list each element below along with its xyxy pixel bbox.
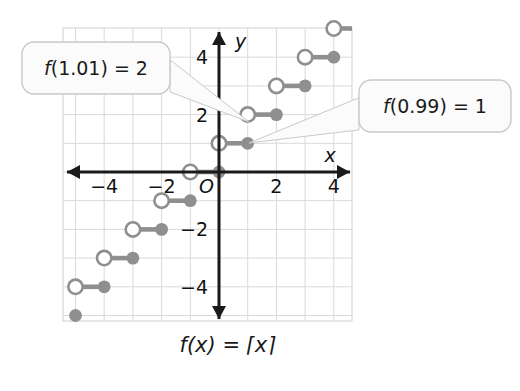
step-closed-endpoint: [270, 108, 283, 121]
x-tick-label: −2: [148, 175, 176, 197]
function-caption: f(x) = ⌈x⌉: [180, 333, 277, 357]
step-closed-endpoint: [184, 194, 197, 207]
step-open-endpoint: [269, 79, 283, 93]
step-open-endpoint: [298, 50, 312, 64]
step-open-endpoint: [68, 280, 82, 294]
step-extra-endpoint: [69, 309, 82, 322]
step-closed-endpoint: [299, 80, 312, 93]
callout-label: f(1.01) = 2: [44, 57, 148, 79]
y-tick-label: −4: [180, 276, 208, 298]
step-closed-endpoint: [126, 252, 139, 265]
step-closed-endpoint: [241, 137, 254, 150]
y-tick-label: 4: [196, 46, 208, 68]
step-open-endpoint: [126, 222, 140, 236]
origin-label: O: [199, 175, 214, 197]
figure-root: −4−22442−2−4 x y O f(1.01) = 2f(0.99) = …: [0, 0, 520, 391]
y-tick-label: 2: [196, 104, 208, 126]
step-open-endpoint: [97, 251, 111, 265]
step-closed-endpoint: [98, 280, 111, 293]
x-axis-label: x: [323, 144, 336, 166]
step-open-endpoint: [327, 21, 341, 35]
step-closed-endpoint: [155, 223, 168, 236]
ceiling-function-figure: −4−22442−2−4 x y O f(1.01) = 2f(0.99) = …: [0, 0, 520, 391]
x-tick-label: −4: [90, 175, 118, 197]
x-tick-label: 4: [328, 175, 340, 197]
callout-label: f(0.99) = 1: [383, 95, 487, 117]
y-tick-label: −2: [180, 218, 208, 240]
y-axis-label: y: [234, 30, 247, 52]
step-closed-endpoint: [327, 51, 340, 64]
x-tick-label: 2: [270, 175, 282, 197]
